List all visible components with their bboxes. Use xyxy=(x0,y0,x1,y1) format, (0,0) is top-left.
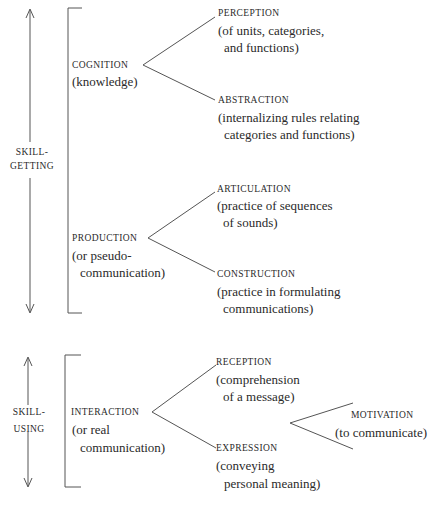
label-line: SKILL- xyxy=(8,148,56,158)
perception-line2: and functions) xyxy=(224,41,299,54)
articulation-line2: of sounds) xyxy=(223,216,278,229)
construction-title: CONSTRUCTION xyxy=(217,270,295,280)
interaction-line2: communication) xyxy=(80,441,165,454)
abstraction-line2: categories and functions) xyxy=(224,128,355,141)
construction-line1: (practice in formulating xyxy=(217,285,340,298)
skill-getting-label: SKILL- GETTING xyxy=(8,148,56,171)
interaction-title: INTERACTION xyxy=(71,408,139,418)
articulation-line1: (practice of sequences xyxy=(217,199,333,212)
label-line: GETTING xyxy=(8,162,56,172)
label-line: USING xyxy=(6,425,52,435)
motivation-line1: (to communicate) xyxy=(335,426,427,439)
perception-line1: (of units, categories, xyxy=(218,24,324,37)
production-line2: communication) xyxy=(80,266,165,279)
articulation-title: ARTICULATION xyxy=(217,185,291,195)
expression-line2: personal meaning) xyxy=(224,477,320,490)
production-line1: (or pseudo- xyxy=(72,249,132,262)
cognition-title: COGNITION xyxy=(72,61,128,71)
reception-title: RECEPTION xyxy=(216,358,272,368)
expression-line1: (conveying xyxy=(216,459,274,472)
abstraction-line1: (internalizing rules relating xyxy=(218,111,360,124)
skill-using-bracket xyxy=(65,355,81,487)
construction-line2: communications) xyxy=(223,302,313,315)
skill-using-label: SKILL- USING xyxy=(6,408,52,434)
interaction-line1: (or real xyxy=(72,423,110,436)
cognition-subtitle: (knowledge) xyxy=(72,75,138,88)
production-title: PRODUCTION xyxy=(72,234,137,244)
expression-title: EXPRESSION xyxy=(216,444,278,454)
reception-line1: (comprehension xyxy=(216,373,300,386)
motivation-title: MOTIVATION xyxy=(351,411,413,421)
label-line: SKILL- xyxy=(6,408,52,418)
perception-title: PERCEPTION xyxy=(218,9,280,19)
abstraction-title: ABSTRACTION xyxy=(218,96,289,106)
reception-line2: of a message) xyxy=(223,390,294,403)
